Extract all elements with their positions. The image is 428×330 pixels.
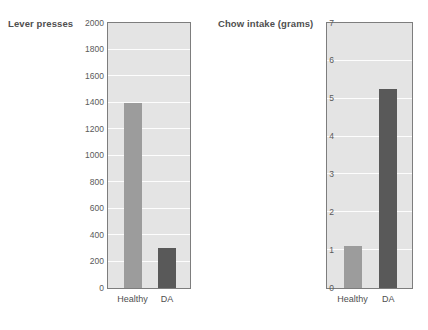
y-tick-label: 1600	[64, 72, 104, 81]
y-tick-label: 0	[310, 284, 334, 293]
gridline	[108, 102, 190, 103]
y-tick-label: 0	[64, 284, 104, 293]
y-tick-label: 6	[310, 56, 334, 65]
gridline	[108, 128, 190, 129]
y-tick-label: 400	[64, 231, 104, 240]
gridline	[327, 98, 412, 99]
gridline	[108, 49, 190, 50]
y-tick-label: 1400	[64, 98, 104, 107]
bar-da	[379, 89, 397, 288]
gridline	[108, 261, 190, 262]
gridline	[108, 75, 190, 76]
y-tick-label: 800	[64, 178, 104, 187]
y-tick-label: 2000	[64, 19, 104, 28]
y-tick-label: 1200	[64, 125, 104, 134]
y-tick-label: 3	[310, 170, 334, 179]
y-tick-label: 5	[310, 94, 334, 103]
y-tick-label: 1	[310, 246, 334, 255]
figure: Lever presses 20001800160014001200100080…	[0, 0, 428, 330]
gridline	[108, 155, 190, 156]
gridline	[327, 211, 412, 212]
y-tick-label: 1000	[64, 151, 104, 160]
y-tick-label: 4	[310, 132, 334, 141]
gridline	[327, 136, 412, 137]
gridline	[108, 208, 190, 209]
plot-area-chow-intake	[326, 22, 413, 289]
y-tick-label: 1800	[64, 45, 104, 54]
gridline	[327, 173, 412, 174]
x-tick-label: DA	[358, 294, 418, 304]
gridline	[327, 249, 412, 250]
gridline	[327, 60, 412, 61]
y-tick-label: 600	[64, 204, 104, 213]
bar-healthy	[344, 246, 362, 288]
chart-panel-lever-presses: Lever presses 20001800160014001200100080…	[0, 0, 214, 330]
y-tick-label: 200	[64, 257, 104, 266]
y-axis-title: Chow intake (grams)	[218, 19, 313, 29]
y-tick-label: 2	[310, 208, 334, 217]
plot-area-lever-presses	[107, 22, 191, 289]
gridline	[108, 181, 190, 182]
chart-panel-chow-intake: Chow intake (grams) 76543210 HealthyDA	[214, 0, 428, 330]
x-tick-label: DA	[137, 294, 197, 304]
bar-da	[158, 248, 176, 288]
gridline	[108, 234, 190, 235]
y-tick-label: 7	[310, 19, 334, 28]
bar-healthy	[124, 103, 142, 289]
